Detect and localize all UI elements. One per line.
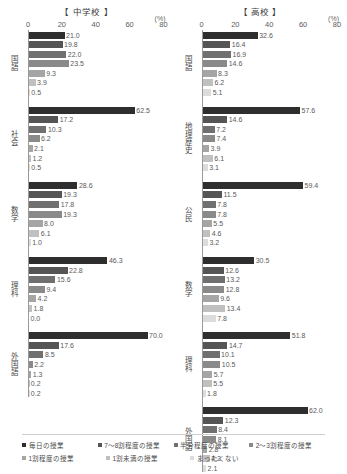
bar-value-label: 14.6 bbox=[229, 116, 243, 123]
bar-value-label: 1.0 bbox=[32, 239, 42, 246]
legend-item[interactable]: 1割程度の授業 bbox=[22, 453, 106, 463]
legend-item[interactable]: 2～3割程度の授業 bbox=[249, 440, 325, 450]
bar bbox=[203, 371, 213, 378]
bar-value-label: 19.3 bbox=[63, 211, 77, 218]
bar bbox=[203, 342, 228, 349]
bar bbox=[203, 286, 225, 293]
bar-row: 5.5 bbox=[203, 220, 338, 228]
bar-row: 70.0 bbox=[29, 332, 164, 340]
legend-swatch-icon bbox=[98, 443, 102, 447]
chart-panel: 【 高校 】(%)020406080国語32.616.416.914.68.36… bbox=[174, 0, 347, 474]
bar-row: 17.6 bbox=[29, 341, 164, 349]
bar-row: 0.2 bbox=[29, 389, 164, 397]
legend-item[interactable]: まったくない bbox=[190, 453, 274, 463]
bar-value-label: 13.2 bbox=[226, 276, 240, 283]
bar-row: 3.9 bbox=[29, 79, 164, 87]
axis-tick-label: 40 bbox=[92, 20, 100, 29]
legend-item[interactable]: 半分程度の授業 bbox=[174, 440, 250, 450]
bar bbox=[203, 230, 211, 237]
bar bbox=[29, 257, 107, 264]
bar bbox=[203, 305, 226, 312]
bar bbox=[203, 126, 215, 133]
bar-value-label: 32.6 bbox=[259, 32, 273, 39]
legend-label: 2～3割程度の授業 bbox=[256, 440, 312, 450]
bar-row: 6.2 bbox=[29, 135, 164, 143]
bar bbox=[29, 116, 58, 123]
bar-value-label: 7.2 bbox=[216, 126, 226, 133]
bar-row: 8.5 bbox=[29, 351, 164, 359]
group-spacer bbox=[203, 173, 338, 180]
axis-tick-label: 60 bbox=[125, 20, 133, 29]
subject-group: 国語21.019.822.023.59.33.90.5 bbox=[29, 30, 164, 97]
axis-tick-label: 40 bbox=[265, 20, 273, 29]
bar-value-label: 4.2 bbox=[38, 295, 48, 302]
bar-row: 3.9 bbox=[203, 145, 338, 153]
bar-value-label: 57.6 bbox=[302, 107, 316, 114]
bar bbox=[203, 417, 224, 424]
bar bbox=[29, 201, 59, 208]
bar-row: 12.8 bbox=[203, 285, 338, 293]
subject-label: 国語 bbox=[2, 30, 26, 97]
bar-row: 1.8 bbox=[203, 389, 338, 397]
bar bbox=[203, 351, 220, 358]
bar-value-label: 62.5 bbox=[136, 107, 150, 114]
bar bbox=[203, 211, 216, 218]
legend-item[interactable]: 7～8割程度の授業 bbox=[98, 440, 174, 450]
bar bbox=[29, 60, 69, 67]
legend-row-2: 1割程度の授業1割未満の授業まったくない bbox=[22, 453, 325, 463]
legend-swatch-icon bbox=[106, 456, 110, 460]
bar bbox=[29, 41, 63, 48]
bar-row: 14.6 bbox=[203, 60, 338, 68]
bar-value-label: 3.1 bbox=[209, 164, 219, 171]
bar-row: 19.8 bbox=[29, 41, 164, 49]
bar-row: 9.6 bbox=[203, 295, 338, 303]
bar bbox=[29, 211, 62, 218]
bar bbox=[29, 182, 77, 189]
bar bbox=[203, 79, 214, 86]
bar-value-label: 9.3 bbox=[46, 70, 56, 77]
subject-label: 数学 bbox=[2, 180, 26, 247]
chart-legend: 毎日の授業7～8割程度の授業半分程度の授業2～3割程度の授業 1割程度の授業1割… bbox=[0, 434, 347, 466]
subject-group: 社会62.517.210.36.22.11.20.5 bbox=[29, 105, 164, 172]
bar bbox=[203, 191, 222, 198]
bar-value-label: 17.8 bbox=[61, 201, 75, 208]
legend-label: 半分程度の授業 bbox=[180, 440, 229, 450]
bar bbox=[203, 145, 210, 152]
bar-row: 9.3 bbox=[29, 69, 164, 77]
bar-row: 0.0 bbox=[29, 314, 164, 322]
bar-value-label: 5.7 bbox=[214, 371, 224, 378]
bar-value-label: 12.6 bbox=[225, 267, 239, 274]
chart-panel: 【 中学校 】(%)020406080国語21.019.822.023.59.3… bbox=[0, 0, 174, 474]
bar-row: 5.5 bbox=[203, 380, 338, 388]
bar bbox=[203, 116, 228, 123]
legend-item[interactable]: 1割未満の授業 bbox=[106, 453, 190, 463]
bar-value-label: 51.8 bbox=[292, 332, 306, 339]
bar-value-label: 3.9 bbox=[37, 79, 47, 86]
bar-row: 22.8 bbox=[29, 266, 164, 274]
bar-value-label: 1.8 bbox=[34, 305, 44, 312]
bar-value-label: 3.9 bbox=[211, 145, 221, 152]
bar bbox=[29, 295, 36, 302]
bar-row: 10.5 bbox=[203, 360, 338, 368]
bar bbox=[29, 89, 30, 96]
legend-swatch-icon bbox=[22, 456, 26, 460]
bar-value-label: 3.2 bbox=[209, 239, 219, 246]
bar bbox=[29, 371, 31, 378]
x-axis: 020406080 bbox=[28, 18, 164, 30]
bar-row: 1.0 bbox=[29, 239, 164, 247]
bar-value-label: 0.2 bbox=[31, 380, 41, 387]
bar bbox=[203, 257, 255, 264]
bar-row: 10.1 bbox=[203, 351, 338, 359]
panel-title: 【 高校 】 bbox=[174, 5, 347, 17]
group-spacer bbox=[203, 399, 338, 406]
legend-label: 1割程度の授業 bbox=[29, 453, 75, 463]
bar-row: 59.4 bbox=[203, 181, 338, 189]
bar-row: 57.6 bbox=[203, 106, 338, 114]
legend-item[interactable]: 毎日の授業 bbox=[22, 440, 98, 450]
bar-value-label: 8.3 bbox=[218, 70, 228, 77]
bar-value-label: 17.2 bbox=[60, 116, 74, 123]
bar-value-label: 13.4 bbox=[227, 305, 241, 312]
bar-row: 2.2 bbox=[29, 360, 164, 368]
group-spacer bbox=[29, 248, 164, 255]
bar-row: 17.2 bbox=[29, 116, 164, 124]
